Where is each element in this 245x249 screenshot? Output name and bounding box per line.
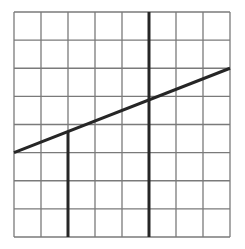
grid-lines [14,12,230,237]
grid-diagram [0,0,245,249]
